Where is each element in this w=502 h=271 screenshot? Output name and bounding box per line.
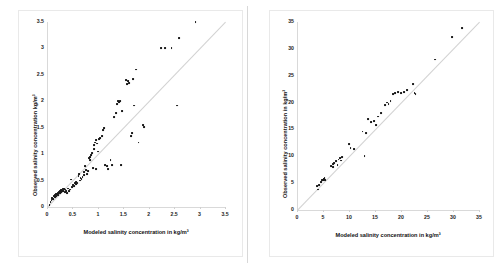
y-tick-label: 2.5	[34, 72, 44, 77]
data-point	[138, 142, 140, 144]
x-tick-label: 2	[147, 212, 150, 217]
data-point	[133, 78, 135, 80]
data-point	[406, 89, 408, 91]
data-point	[106, 165, 108, 167]
right-y-axis-title: Observed salinity concentration in kg/m³	[283, 90, 289, 198]
x-tick-label: 1	[96, 212, 99, 217]
data-point	[195, 21, 197, 23]
data-point	[340, 160, 342, 162]
x-tick-label: 10	[346, 215, 352, 220]
data-point	[171, 47, 173, 49]
data-point	[135, 69, 137, 71]
data-point	[87, 170, 89, 172]
data-point	[96, 143, 98, 145]
data-point	[318, 184, 320, 186]
y-tick-label: 3	[34, 46, 44, 51]
y-tick-label: 0	[284, 207, 294, 212]
data-point	[115, 112, 117, 114]
data-point	[107, 168, 109, 170]
data-point	[324, 180, 326, 182]
data-point	[377, 116, 379, 118]
y-axis-line	[297, 22, 298, 210]
x-tick-mark	[47, 207, 48, 209]
data-point	[103, 127, 105, 129]
x-axis-line	[297, 210, 479, 211]
data-point	[95, 139, 97, 141]
x-tick-label: 0	[46, 212, 49, 217]
left-x-axis-title: Modeled salinity concentration in kg/m³	[83, 230, 188, 236]
data-point	[400, 92, 402, 94]
data-point	[121, 110, 123, 112]
x-tick-mark	[349, 210, 350, 212]
data-point	[70, 179, 72, 181]
left-scatter-panel: 00.511.522.533.500.511.522.533.5 Modeled…	[0, 0, 251, 271]
x-tick-mark	[149, 207, 150, 209]
x-tick-mark	[123, 207, 124, 209]
data-point	[178, 37, 180, 39]
y-tick-label: 35	[284, 19, 294, 24]
y-tick-label: 30	[284, 46, 294, 51]
data-point	[86, 173, 88, 175]
data-point	[388, 103, 390, 105]
x-tick-mark	[174, 207, 175, 209]
data-point	[380, 112, 382, 114]
data-point	[394, 92, 396, 94]
data-point	[413, 83, 415, 85]
data-point	[77, 182, 79, 184]
data-point	[434, 59, 436, 61]
x-tick-label: 35	[476, 215, 482, 220]
data-point	[89, 160, 91, 162]
data-point	[90, 154, 92, 156]
data-point	[92, 167, 94, 169]
data-point	[97, 151, 99, 153]
x-tick-label: 20	[398, 215, 404, 220]
data-point	[364, 155, 366, 157]
data-point	[176, 105, 178, 107]
data-point	[348, 143, 350, 145]
x-tick-mark	[225, 207, 226, 209]
x-tick-label: 0	[296, 215, 299, 220]
data-point	[78, 173, 80, 175]
data-point	[384, 104, 386, 106]
data-point	[353, 148, 355, 150]
data-point	[130, 135, 132, 137]
x-tick-mark	[323, 210, 324, 212]
data-point	[365, 132, 367, 134]
data-point	[93, 148, 95, 150]
x-tick-mark	[297, 210, 298, 212]
one-to-one-reference-line	[47, 22, 226, 208]
x-tick-label: 3.5	[221, 212, 228, 217]
data-point	[83, 174, 85, 176]
x-tick-label: 3	[198, 212, 201, 217]
y-tick-label: 3.5	[34, 19, 44, 24]
data-point	[397, 91, 399, 93]
x-axis-line	[47, 207, 225, 208]
data-point	[111, 164, 113, 166]
x-tick-label: 0.5	[69, 212, 76, 217]
data-point	[74, 185, 76, 187]
y-axis-line	[47, 22, 48, 207]
data-point	[110, 160, 112, 162]
data-point	[128, 82, 130, 84]
data-point	[91, 152, 93, 154]
right-plot-area: 0510152025303505101520253035	[297, 22, 479, 210]
data-point	[99, 137, 101, 139]
data-point	[350, 147, 352, 149]
data-point	[362, 131, 364, 133]
data-point	[341, 156, 343, 158]
data-point	[49, 204, 51, 206]
data-point	[370, 121, 372, 123]
x-tick-label: 25	[424, 215, 430, 220]
data-point	[134, 105, 136, 107]
data-point	[375, 124, 377, 126]
data-point	[95, 168, 97, 170]
x-tick-mark	[453, 210, 454, 212]
data-point	[160, 47, 162, 49]
data-point	[84, 165, 86, 167]
panel-divider	[247, 6, 248, 263]
data-point	[101, 135, 103, 137]
data-point	[461, 27, 463, 29]
x-tick-label: 15	[372, 215, 378, 220]
data-point	[143, 126, 145, 128]
data-point	[337, 164, 339, 166]
